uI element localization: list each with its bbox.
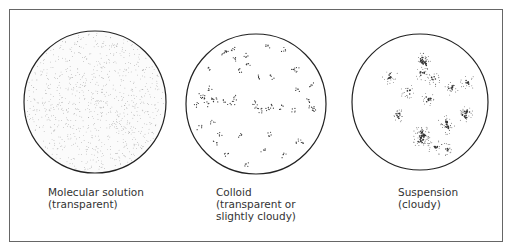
molecular-solution-circle <box>24 31 166 173</box>
label-colloid: Colloid (transparent or slightly cloudy) <box>216 186 296 222</box>
label-suspension: Suspension (cloudy) <box>398 186 458 210</box>
suspension-circle <box>352 34 488 170</box>
label-molecular-solution: Molecular solution (transparent) <box>48 186 144 210</box>
colloid-circle <box>186 34 326 174</box>
